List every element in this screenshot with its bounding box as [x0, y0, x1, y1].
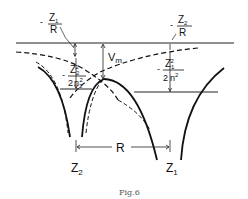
- label-z1-over-r-sign: -: [40, 17, 43, 27]
- label-z2-over-r-den: R: [179, 27, 186, 38]
- label-z2sq-den: 2n22: [68, 77, 83, 89]
- label-nucleus-z2: Z2: [71, 161, 83, 177]
- label-z2sq-num: Z22: [70, 64, 80, 76]
- solid-curve-left-outer: [38, 67, 70, 137]
- label-z2-over-r-num: Z2: [178, 14, 188, 26]
- label-nucleus-z1: Z1: [166, 161, 178, 177]
- potential-diagram: - Z1 R - Z2 R - Z22 2n22 - Z12 2n2 Vm R …: [0, 0, 248, 199]
- label-vm: Vm: [108, 51, 122, 65]
- figure-caption: Fig.6: [119, 188, 140, 197]
- solid-curve-right: [181, 68, 224, 160]
- label-z1sq-sign: -: [157, 64, 160, 74]
- label-z1sq-num: Z12: [165, 58, 175, 70]
- label-z1-over-r-num: Z1: [49, 12, 59, 24]
- label-z1sq-den: 2n2: [163, 72, 179, 83]
- label-z1-over-r-den: R: [50, 24, 57, 35]
- dashed-well-z1-left: [118, 100, 150, 130]
- label-z2-over-r-sign: -: [170, 20, 173, 30]
- label-distance-r: R: [116, 141, 125, 155]
- label-z2sq-sign: -: [62, 70, 65, 80]
